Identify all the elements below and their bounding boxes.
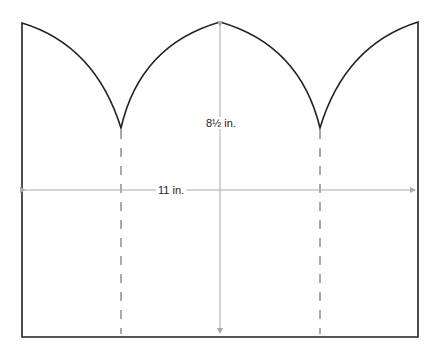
- template-diagram: [0, 0, 441, 354]
- width-label: 11 in.: [156, 184, 186, 196]
- height-label: 8½ in.: [204, 117, 238, 129]
